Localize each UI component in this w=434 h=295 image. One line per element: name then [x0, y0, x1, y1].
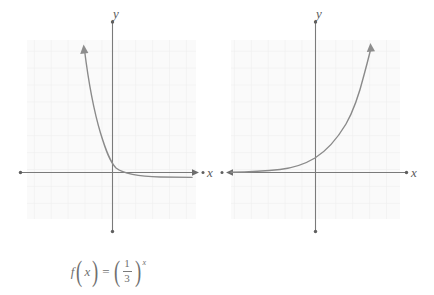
grid-area: [27, 40, 196, 219]
exponential-graphs-figure: x y f ( x ) = ( 1 3 ) x: [0, 0, 434, 295]
left-caption: f ( x ) = ( 1 3 ) x: [0, 258, 217, 284]
x-axis-label: x: [206, 165, 213, 180]
y-axis-label: y: [314, 6, 322, 21]
fraction-numerator: 1: [124, 258, 130, 270]
open-paren-arg: (: [76, 259, 82, 284]
y-axis-label: y: [111, 6, 119, 21]
open-paren-base: (: [113, 259, 119, 284]
close-paren-arg: ): [92, 259, 98, 284]
fraction-one-third: 1 3: [122, 258, 133, 284]
growth-graph: x y: [217, 0, 434, 250]
function-expression-f: f ( x ) = ( 1 3 ) x: [71, 258, 146, 284]
left-panel: x y f ( x ) = ( 1 3 ) x: [0, 0, 217, 295]
fraction-denominator: 3: [124, 273, 130, 285]
exponent-x: x: [143, 259, 147, 267]
function-name-f: f: [71, 265, 75, 278]
close-paren-base: ): [134, 259, 140, 284]
right-panel: x y g ( x ) = 2 x: [217, 0, 434, 295]
equals-sign: =: [100, 265, 111, 278]
x-axis-label: x: [410, 165, 417, 180]
decay-graph: x y: [0, 0, 217, 250]
variable-x: x: [84, 265, 90, 278]
